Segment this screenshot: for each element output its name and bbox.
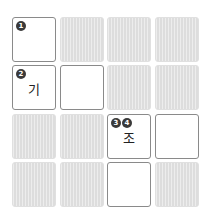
blocked-cell — [60, 17, 104, 62]
blocked-cell — [155, 65, 199, 110]
clue-number-badge: 3 — [111, 118, 121, 128]
cell-r2c1[interactable]: 2 기 — [12, 65, 56, 110]
cell-value: 기 — [13, 82, 55, 98]
blocked-cell — [12, 114, 56, 159]
cell-r3c3[interactable]: 3 4 조 — [107, 114, 151, 159]
clue-number-badge: 1 — [16, 21, 26, 31]
crossword-grid: 1 2 기 3 4 조 — [12, 17, 200, 209]
blocked-cell — [107, 65, 151, 110]
cell-value: 조 — [108, 131, 150, 147]
cell-r3c4[interactable] — [155, 114, 199, 159]
blocked-cell — [155, 162, 199, 207]
blocked-cell — [107, 17, 151, 62]
blocked-cell — [12, 162, 56, 207]
cell-r1c1[interactable]: 1 — [12, 17, 56, 62]
blocked-cell — [155, 17, 199, 62]
blocked-cell — [60, 162, 104, 207]
blocked-cell — [60, 114, 104, 159]
cell-r2c2[interactable] — [60, 65, 104, 110]
clue-number-badge: 2 — [16, 69, 26, 79]
clue-number-badge: 4 — [122, 118, 132, 128]
cell-r4c3[interactable] — [107, 162, 151, 207]
